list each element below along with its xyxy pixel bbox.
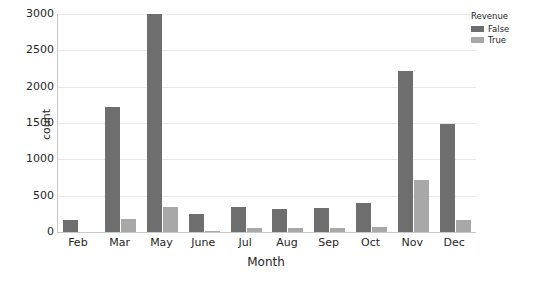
bar: [456, 220, 471, 232]
plot-area: [57, 14, 476, 233]
bar-chart: count 050010001500200025003000 Month Rev…: [0, 0, 535, 282]
x-axis-label: Month: [57, 255, 475, 269]
bar: [163, 207, 178, 232]
y-axis-tick-label: 2500: [14, 44, 54, 55]
y-axis-tick-label: 1500: [14, 117, 54, 128]
bar: [288, 228, 303, 232]
legend-swatch-icon: [471, 37, 484, 43]
bar: [440, 124, 455, 232]
bar: [272, 209, 287, 232]
bar: [372, 227, 387, 232]
legend-swatch-icon: [471, 26, 484, 32]
bar: [414, 180, 429, 232]
bar: [247, 228, 262, 232]
x-axis-tick-label: Dec: [424, 236, 484, 249]
legend-item: True: [471, 34, 531, 45]
legend: Revenue FalseTrue: [471, 11, 531, 45]
bar: [121, 219, 136, 232]
bar: [398, 71, 413, 232]
y-axis-tick-labels: 050010001500200025003000: [10, 0, 54, 232]
bar: [314, 208, 329, 232]
bar: [231, 207, 246, 232]
bar: [189, 214, 204, 232]
bars-layer: [58, 14, 476, 232]
bar: [147, 14, 162, 232]
y-axis-tick-label: 2000: [14, 81, 54, 92]
legend-entries: FalseTrue: [471, 23, 531, 45]
bar: [205, 231, 220, 232]
bar: [356, 203, 371, 232]
bar: [63, 220, 78, 232]
y-axis-tick-label: 3000: [14, 8, 54, 19]
legend-title: Revenue: [471, 11, 531, 21]
legend-item: False: [471, 23, 531, 34]
legend-item-label: False: [488, 24, 509, 34]
bar: [330, 228, 345, 232]
bar: [105, 107, 120, 232]
y-axis-tick-label: 1000: [14, 153, 54, 164]
legend-item-label: True: [488, 35, 506, 45]
y-axis-tick-label: 500: [14, 190, 54, 201]
